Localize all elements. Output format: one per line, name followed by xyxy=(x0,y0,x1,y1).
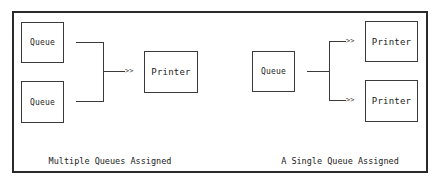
caption-line: A Single Queue Assigned xyxy=(270,156,410,167)
printer-box: Printer xyxy=(144,51,198,93)
printer-box-1: Printer xyxy=(365,21,418,62)
arrow-icon: >> xyxy=(125,67,133,75)
printer-label: Printer xyxy=(372,96,411,106)
left-caption: Multiple Queues Assigned to a Single Pri… xyxy=(40,134,180,178)
connector-line xyxy=(76,42,104,43)
arrow-icon: >> xyxy=(346,96,354,104)
connector-line xyxy=(103,42,104,102)
connector-line xyxy=(329,41,330,101)
connector-line xyxy=(76,101,104,102)
printer-label: Printer xyxy=(372,37,411,47)
queue-box-2: Queue xyxy=(21,81,64,123)
connector-line xyxy=(329,100,346,101)
connector-line xyxy=(307,71,329,72)
connector-line xyxy=(329,41,346,42)
queue-box-1: Queue xyxy=(21,22,64,63)
queue-label: Queue xyxy=(30,38,55,47)
arrow-icon: >> xyxy=(346,37,354,45)
printer-box-2: Printer xyxy=(365,80,418,122)
connector-line xyxy=(103,71,125,72)
queue-label: Queue xyxy=(261,67,286,76)
right-caption: A Single Queue Assigned to Multiple Prin… xyxy=(270,134,410,178)
queue-label: Queue xyxy=(30,98,55,107)
caption-line: Multiple Queues Assigned xyxy=(40,156,180,167)
queue-box: Queue xyxy=(252,51,295,92)
printer-label: Printer xyxy=(151,67,190,77)
